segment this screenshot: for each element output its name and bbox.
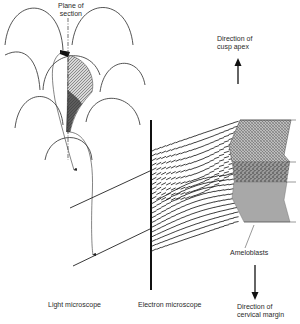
diagram-canvas xyxy=(0,0,300,324)
label-direction-cervical-margin: Direction of cervical margin xyxy=(237,303,284,319)
label-ameloblasts: Ameloblasts xyxy=(230,249,268,257)
cusp-apex-arrow xyxy=(235,58,242,84)
enamel-hatched-layer xyxy=(229,120,291,162)
label-direction-cusp-apex: Direction of cusp apex xyxy=(217,35,252,51)
label-light-microscope: Light microscope xyxy=(48,301,101,309)
ameloblasts-leader xyxy=(245,225,254,248)
lm-plane-upper xyxy=(70,170,152,208)
label-plane-of-section: Plane of section xyxy=(58,2,84,18)
cervical-margin-arrow xyxy=(252,265,259,300)
stippled-layer xyxy=(232,162,290,182)
lm-plane-lower xyxy=(73,228,152,266)
ameloblast-layer xyxy=(232,182,290,222)
label-electron-microscope: Electron microscope xyxy=(138,301,201,309)
crystallite-field xyxy=(152,121,238,251)
